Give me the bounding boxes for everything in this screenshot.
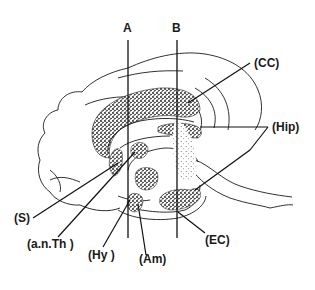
label-hippocampus: (Hip) (272, 120, 299, 134)
section-label-a: A (123, 21, 132, 35)
septum-region (109, 149, 122, 176)
label-amygdala: (Am) (139, 252, 166, 266)
label-anterior-nucleus-thalamus: (a.n.Th ) (27, 237, 74, 251)
brain-sagittal-diagram: A B (CC) (Hip) (S) (a.n.Th ) (Hy ) (Am) … (0, 0, 315, 290)
section-label-b: B (172, 21, 181, 35)
label-entorhinal-cortex: (EC) (205, 233, 230, 247)
label-septum: (S) (14, 211, 30, 225)
label-hypothalamus: (Hy ) (88, 248, 115, 262)
label-corpus-callosum: (CC) (254, 56, 279, 70)
amygdala-region (118, 188, 206, 219)
